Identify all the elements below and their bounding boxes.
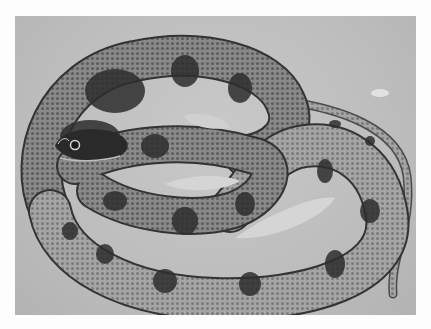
snake-photograph xyxy=(15,16,416,315)
snake-bands xyxy=(60,55,380,296)
snake-eye xyxy=(71,141,80,150)
background-highlight xyxy=(371,89,389,97)
snake-illustration xyxy=(15,16,416,315)
